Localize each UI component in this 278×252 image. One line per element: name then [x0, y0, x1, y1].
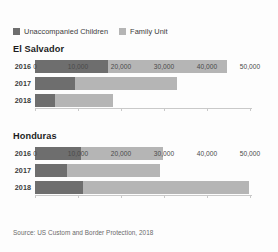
chart-card: Unaccompanied Children Family Unit El Sa…: [0, 0, 278, 252]
axis-tick-label: 50,000: [240, 63, 260, 71]
x-axis: [35, 108, 252, 109]
axis-tick-label: 40,000: [197, 63, 217, 71]
panel-title: El Salvador: [13, 44, 64, 54]
source-note: Source: US Custom and Border Protection,…: [13, 229, 153, 237]
axis-tick: [35, 195, 36, 198]
axis-tick-label: 0: [33, 63, 37, 71]
square-swatch-icon: [119, 28, 126, 35]
axis-tick: [78, 108, 79, 111]
bar-track: [35, 77, 250, 90]
row-label: 2016: [8, 149, 31, 158]
bar-segment-family-unit: [75, 77, 177, 90]
axis-tick: [164, 108, 165, 111]
bar-segment-unaccompanied-children: [35, 94, 55, 107]
bar-segment-family-unit: [67, 164, 160, 177]
row-label: 2016: [8, 62, 31, 71]
axis-tick-label: 0: [33, 150, 37, 158]
bar-row: 2016: [0, 147, 278, 160]
axis-tick-label: 50,000: [240, 150, 260, 158]
bar-segment-unaccompanied-children: [35, 164, 67, 177]
bar-track: [35, 164, 250, 177]
bar-segment-family-unit: [83, 181, 249, 194]
axis-tick: [164, 195, 165, 198]
bar-row: 2018: [0, 181, 278, 194]
legend-item-unaccompanied-children: Unaccompanied Children: [13, 28, 108, 36]
axis-tick: [121, 108, 122, 111]
axis-tick: [78, 195, 79, 198]
axis-tick: [250, 108, 251, 111]
bar-segment-unaccompanied-children: [35, 181, 83, 194]
legend-item-family-unit: Family Unit: [119, 28, 168, 36]
x-axis: [35, 195, 252, 196]
bar-row: 2016: [0, 60, 278, 73]
row-label: 2017: [8, 79, 31, 88]
axis-tick-label: 30,000: [154, 63, 174, 71]
axis-tick-label: 30,000: [154, 150, 174, 158]
legend-label: Family Unit: [130, 28, 168, 36]
axis-tick-label: 20,000: [111, 63, 131, 71]
row-label: 2017: [8, 166, 31, 175]
bar-track: [35, 181, 250, 194]
legend-label: Unaccompanied Children: [24, 28, 108, 36]
axis-tick-label: 20,000: [111, 150, 131, 158]
row-label: 2018: [8, 96, 31, 105]
bar-segment-family-unit: [55, 94, 113, 107]
plot-area-el-salvador: 2016 2017 2018: [0, 58, 278, 120]
axis-tick: [35, 108, 36, 111]
chart-legend: Unaccompanied Children Family Unit: [13, 26, 168, 37]
bar-row: 2017: [0, 77, 278, 90]
bar-segment-unaccompanied-children: [35, 77, 75, 90]
bar-row: 2018: [0, 94, 278, 107]
square-swatch-icon: [13, 28, 20, 35]
axis-tick-label: 10,000: [68, 150, 88, 158]
plot-area-honduras: 2016 2017 2018: [0, 145, 278, 207]
bar-row: 2017: [0, 164, 278, 177]
axis-tick: [207, 195, 208, 198]
row-label: 2018: [8, 183, 31, 192]
axis-tick: [250, 195, 251, 198]
axis-tick: [121, 195, 122, 198]
axis-tick: [207, 108, 208, 111]
axis-tick-label: 40,000: [197, 150, 217, 158]
panel-title: Honduras: [13, 131, 57, 141]
bar-track: [35, 94, 250, 107]
axis-tick-label: 10,000: [68, 63, 88, 71]
